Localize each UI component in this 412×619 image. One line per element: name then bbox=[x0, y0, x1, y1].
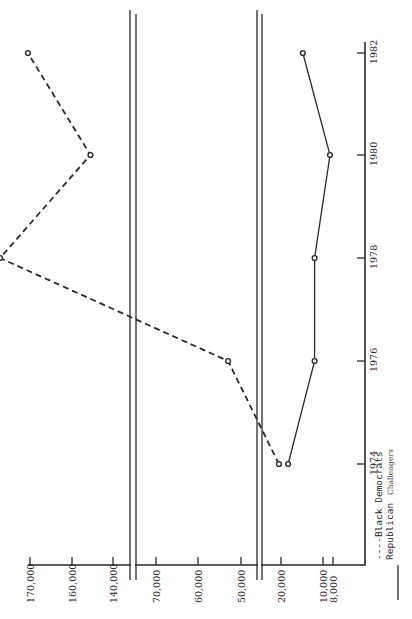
legend-challengers: Challengers bbox=[386, 449, 395, 495]
y-tick-label: 20,000 bbox=[276, 570, 287, 603]
legend-black-democrats: ----Black Democrats bbox=[373, 451, 384, 560]
x-tick-label: 1980 bbox=[368, 142, 379, 166]
y-tick-label: 140,000 bbox=[108, 564, 119, 603]
axis-breaks bbox=[130, 10, 262, 580]
x-tick-label: 1976 bbox=[368, 348, 379, 372]
series-lines bbox=[0, 51, 332, 467]
data-point bbox=[286, 462, 291, 467]
data-point bbox=[88, 153, 93, 158]
line-chart: 170,000160,000140,00070,00060,00050,0002… bbox=[0, 0, 412, 619]
break-gap bbox=[258, 563, 261, 567]
y-tick-label: 50,000 bbox=[236, 570, 247, 603]
series-republican-challengers bbox=[288, 53, 330, 464]
y-tick-label: 8,000 bbox=[328, 576, 339, 603]
data-point bbox=[312, 359, 317, 364]
data-point bbox=[328, 153, 333, 158]
legend-republican: Republican bbox=[384, 503, 395, 560]
tick-labels: 170,000160,000140,00070,00060,00050,0002… bbox=[25, 40, 380, 603]
legend: ----Black Democrats Republican Challenge… bbox=[373, 449, 398, 600]
x-tick-label: 1978 bbox=[368, 245, 379, 269]
series-black-democrats bbox=[0, 53, 279, 464]
y-tick-label: 70,000 bbox=[151, 570, 162, 603]
data-point bbox=[277, 462, 282, 467]
y-tick-label: 170,000 bbox=[25, 564, 36, 603]
x-tick-label: 1982 bbox=[368, 40, 379, 64]
y-tick-label: 160,000 bbox=[67, 564, 78, 603]
data-point bbox=[300, 51, 305, 56]
data-point bbox=[226, 359, 231, 364]
data-point bbox=[312, 256, 317, 261]
data-point bbox=[26, 51, 31, 56]
y-tick-label: 60,000 bbox=[193, 570, 204, 603]
break-gap bbox=[131, 563, 135, 567]
data-point bbox=[0, 256, 2, 261]
